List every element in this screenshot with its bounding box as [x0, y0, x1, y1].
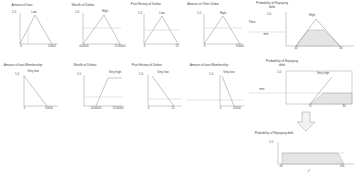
- aggregated-output-plot: [252, 132, 356, 184]
- x-tick-max: 40000: [230, 107, 244, 110]
- defuzzified-output-label: z*: [304, 170, 314, 173]
- panel-wealth-of-debtor-very-high: Wealth of Debtor 1.0 Very high 1000000 1…: [62, 64, 124, 114]
- x-tick-min: 0: [17, 45, 25, 48]
- fuzzy-inference-diagram: Amount of loan 1.0 Low 0 50000 Wealth of…: [0, 0, 357, 186]
- x-tick-min: 0: [217, 107, 224, 110]
- x-tick-max: 1200000: [110, 107, 126, 110]
- x-tick-min: 40: [277, 165, 285, 168]
- panel-wealth-of-debtor-high: Wealth of Debtor 1.0 High 400000 1200000: [62, 4, 122, 52]
- panel-amount-of-loan-membership-very-low-2: Amount of loan Membership 1.0 Very low 0…: [186, 64, 246, 114]
- x-tick-max: 15: [173, 45, 181, 48]
- x-tick-max: 15: [169, 107, 177, 110]
- x-tick-min: 0: [145, 107, 152, 110]
- x-tick-max: 80: [337, 47, 345, 50]
- x-tick-min: 400000: [76, 45, 92, 48]
- arrow-down-icon: [296, 112, 318, 132]
- x-tick-min: 0: [21, 107, 28, 110]
- x-tick-min: 75: [306, 105, 314, 108]
- x-tick-min: 0: [141, 45, 148, 48]
- panel-past-history-of-debtor-very-low: Past History of Debtor 1.0 Very low 0 15: [126, 64, 184, 114]
- x-tick-max: 50000: [45, 45, 59, 48]
- x-tick-min: 0: [201, 45, 208, 48]
- x-tick-min: 40: [292, 47, 300, 50]
- x-tick-max: 80000: [234, 45, 246, 48]
- panel-amount-of-loan-membership-very-low: Amount of loan Membership 1.0 Very low 0…: [2, 64, 60, 114]
- panel-amount-of-loan-high: Amount of loan 1.0 Low 0 50000: [2, 4, 60, 52]
- x-tick-max: 40000: [42, 107, 56, 110]
- panel-probability-of-repaying-debt-high: Probability of Repaying debt 1.0 Then mi…: [248, 2, 356, 56]
- panel-amount-of-other-debts-high: Amount of Other Debts 1.0 High 0 80000: [184, 4, 244, 52]
- panel-probability-of-repaying-debt-very-high: Probability of Repaying debt 1.0 min Ver…: [248, 60, 356, 112]
- x-tick-min: 1000000: [88, 107, 104, 110]
- x-tick-max: 100: [337, 165, 347, 168]
- defuzzification-arrow: [296, 112, 318, 132]
- x-tick-max: 80: [340, 105, 348, 108]
- panel-probability-of-repaying-debt-output: Probability of Repaying debt 1.0 40 100 …: [252, 132, 356, 184]
- panel-past-history-of-debtor-low: Past History of Debtor 1.0 Low 0 15: [124, 4, 182, 52]
